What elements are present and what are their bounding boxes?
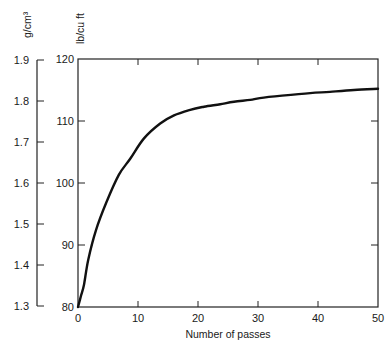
y-tick-label: 80 (62, 301, 74, 313)
x-tick-label: 0 (75, 312, 81, 324)
secondary-y-tick-label: 1.8 (14, 95, 29, 107)
x-tick-label: 30 (252, 312, 264, 324)
y-tick-label: 90 (62, 239, 74, 251)
secondary-y-tick-label: 1.5 (14, 218, 29, 230)
x-tick-label: 10 (132, 312, 144, 324)
secondary-y-axis-title: g/cm³ (21, 11, 33, 38)
density-curve (78, 89, 378, 307)
secondary-y-tick-label: 1.7 (14, 136, 29, 148)
secondary-y-tick-label: 1.6 (14, 177, 29, 189)
y-tick-label: 110 (56, 115, 74, 127)
x-axis-ticks: 01020304050 (75, 59, 384, 324)
x-tick-label: 50 (372, 312, 384, 324)
plot-frame (78, 59, 378, 307)
secondary-y-tick-label: 1.3 (14, 300, 29, 312)
x-tick-label: 20 (192, 312, 204, 324)
x-axis-title: Number of passes (185, 328, 270, 340)
primary-y-axis-title: lb/cu ft (74, 13, 86, 44)
secondary-y-axis-ticks: 1.31.41.51.61.71.81.9 (14, 54, 44, 312)
x-tick-label: 40 (312, 312, 324, 324)
compaction-density-chart: g/cm³ lb/cu ft 1.31.41.51.61.71.81.9 809… (0, 0, 391, 354)
secondary-y-tick-label: 1.4 (14, 259, 29, 271)
y-tick-label: 100 (56, 177, 74, 189)
y-tick-label: 120 (56, 53, 74, 65)
secondary-y-tick-label: 1.9 (14, 54, 29, 66)
